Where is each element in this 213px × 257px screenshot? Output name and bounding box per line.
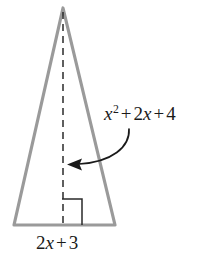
triangle-outline: [14, 8, 115, 225]
geometry-figure: x2+2x+4 2x+3: [0, 0, 213, 257]
figure-canvas: [0, 0, 213, 257]
hyp-operator-2: +: [153, 103, 164, 124]
hyp-var-1: x: [104, 103, 112, 124]
base-length-label: 2x+3: [36, 233, 78, 252]
hyp-constant: 4: [166, 103, 176, 124]
base-operator: +: [56, 232, 67, 253]
side-length-label: x2+2x+4: [104, 104, 176, 123]
base-coefficient: 2: [36, 232, 46, 253]
base-var: x: [46, 232, 54, 253]
hyp-operator-1: +: [121, 103, 132, 124]
hyp-var-2: x: [143, 103, 151, 124]
hyp-coefficient-2: 2: [134, 103, 144, 124]
base-constant: 3: [69, 232, 79, 253]
hyp-exponent: 2: [113, 103, 119, 116]
